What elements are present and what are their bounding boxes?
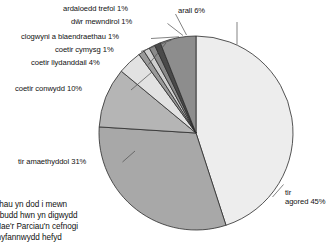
slice-label-ardaloedd-trefol: ardaloedd trefol 1% [63, 4, 128, 13]
slice-label-clogwyni: clogwyni a blaendraethau 1% [21, 32, 119, 41]
pie-slices [99, 36, 293, 230]
slice-label-tir-amaethyddol: tir amaethyddol 31% [18, 157, 86, 166]
body-text-line-2: r o'r budd hwn yn digwydd [0, 211, 78, 222]
slice-label-arall: arall 6% [178, 6, 205, 15]
chart-canvas: ardaloedd trefol 1% dŵr mewndirol 1% clo… [0, 0, 334, 246]
body-text-line-3: l. Mae'r Parciau'n cefnogi [0, 222, 78, 233]
slice-label-tir-agored-line1: tir [285, 188, 291, 197]
slice-label-coetir-conwydd: coetir conwydd 10% [15, 84, 82, 93]
slice-label-coetir-cymysg: coetir cymysg 1% [55, 45, 114, 54]
slice-label-tir-agored-line2: agored 45% [285, 197, 325, 206]
body-text-line-1: aethau yn dod i mewn [0, 200, 67, 211]
body-text-line-4: ei chyfannwydd hefyd [0, 233, 62, 244]
slice-label-dwr-mewndirol: dŵr mewndirol 1% [71, 17, 132, 26]
slice-label-coetir-llydanddail: coetir llydanddail 4% [31, 58, 100, 67]
